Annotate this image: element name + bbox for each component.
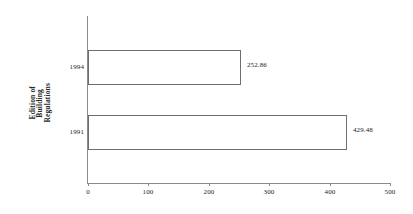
- x-axis-line: [87, 183, 390, 184]
- bar-label-1994: 252.86: [247, 62, 267, 69]
- x-tick-label-500: 500: [380, 189, 400, 196]
- x-tick-label-200: 200: [199, 189, 219, 196]
- bar-1991: [88, 115, 347, 150]
- y-axis-line: [87, 16, 88, 183]
- y-tick-label-1994: 1994: [58, 64, 84, 71]
- bar-1994: [88, 50, 241, 85]
- bar-label-1991: 429.48: [353, 127, 373, 134]
- x-tick-300: [269, 183, 270, 186]
- x-tick-label-300: 300: [259, 189, 279, 196]
- y-axis-title: Edition of Building Regulations: [18, 48, 62, 158]
- x-tick-label-100: 100: [138, 189, 158, 196]
- y-axis-title-line-3: Regulations: [44, 83, 52, 123]
- x-tick-400: [330, 183, 331, 186]
- y-tick-label-1991: 1991: [58, 129, 84, 136]
- x-tick-0: [88, 183, 89, 186]
- x-tick-500: [390, 183, 391, 186]
- plot-area: 252.86 429.48 0 100 200 300 400 500: [88, 16, 390, 183]
- bar-chart-figure: Edition of Building Regulations 1994 199…: [0, 0, 413, 214]
- x-tick-label-0: 0: [78, 189, 98, 196]
- x-tick-label-400: 400: [320, 189, 340, 196]
- x-tick-200: [209, 183, 210, 186]
- x-tick-100: [148, 183, 149, 186]
